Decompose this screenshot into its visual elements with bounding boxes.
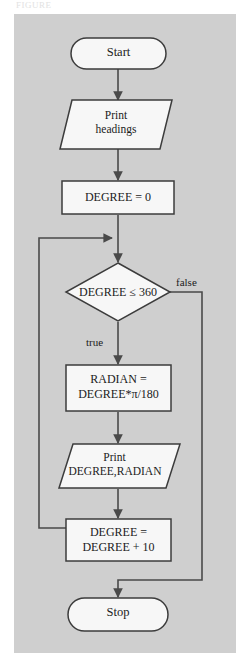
flowchart-page: FIGURE <box>0 0 236 653</box>
flowchart-canvas <box>0 0 236 653</box>
node-init-process <box>62 181 174 214</box>
node-stop-terminator <box>68 598 168 631</box>
node-print-row-io <box>59 444 180 488</box>
node-increment-process <box>66 519 171 561</box>
node-decision-diamond <box>66 263 170 321</box>
node-print-headings-io <box>60 100 172 149</box>
node-compute-process <box>66 365 171 411</box>
node-start-terminator <box>71 38 166 69</box>
